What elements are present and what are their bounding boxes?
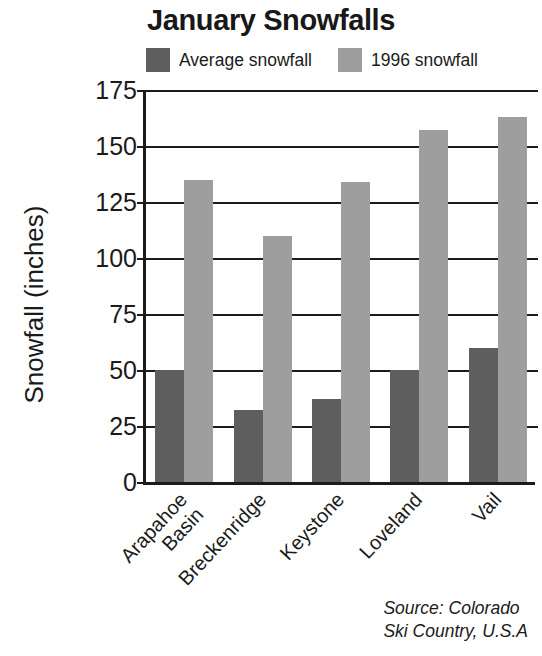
- bar-average-3: [390, 370, 419, 482]
- plot-area: 1751501251007550250: [143, 90, 535, 485]
- snowfall-bar-chart: January Snowfalls Average snowfall 1996 …: [0, 0, 542, 656]
- bar-1996-4: [498, 117, 527, 482]
- legend-label-average: Average snowfall: [179, 50, 312, 71]
- y-tick-label-150: 150: [95, 132, 137, 161]
- y-tick-label-0: 0: [123, 468, 137, 497]
- bar-1996-3: [419, 130, 448, 482]
- x-axis-label-line1: Keystone: [275, 488, 348, 564]
- bar-average-4: [469, 348, 498, 482]
- chart-legend: Average snowfall 1996 snowfall: [146, 48, 478, 72]
- x-axis-label-4: Vail: [468, 489, 506, 527]
- y-tick-label-100: 100: [95, 244, 137, 273]
- x-axis-label-line1: Loveland: [355, 488, 426, 562]
- legend-entry-1996: 1996 snowfall: [338, 48, 478, 72]
- bars-layer: [146, 90, 538, 482]
- x-axis-label-3: Loveland: [356, 489, 427, 563]
- source-note: Source: Colorado Ski Country, U.S.A: [383, 597, 528, 644]
- y-tick-label-75: 75: [109, 300, 137, 329]
- y-tick-label-175: 175: [95, 76, 137, 105]
- y-tick-mark-125: [137, 202, 146, 204]
- x-axis-label-line1: Vail: [467, 488, 505, 526]
- y-tick-mark-0: [137, 482, 146, 484]
- x-axis-label-2: Keystone: [276, 489, 349, 565]
- y-tick-label-25: 25: [109, 412, 137, 441]
- y-tick-mark-75: [137, 314, 146, 316]
- bar-1996-1: [263, 236, 292, 482]
- y-axis-title: Snowfall (inches): [19, 140, 50, 470]
- bar-average-2: [312, 399, 341, 482]
- x-axis-labels: ArapahoeBasinBreckenridgeKeystoneLovelan…: [143, 487, 542, 592]
- y-tick-mark-100: [137, 258, 146, 260]
- bar-average-0: [155, 370, 184, 482]
- y-tick-mark-50: [137, 370, 146, 372]
- source-line-2: Ski Country, U.S.A: [383, 620, 528, 644]
- legend-entry-average: Average snowfall: [146, 48, 312, 72]
- bar-1996-0: [184, 180, 213, 482]
- legend-label-1996: 1996 snowfall: [371, 50, 478, 71]
- y-tick-label-50: 50: [109, 356, 137, 385]
- source-line-1: Source: Colorado: [383, 597, 528, 621]
- chart-title: January Snowfalls: [0, 4, 542, 37]
- bar-average-1: [234, 410, 263, 482]
- y-tick-mark-175: [137, 90, 146, 92]
- y-tick-mark-150: [137, 146, 146, 148]
- y-tick-label-125: 125: [95, 188, 137, 217]
- legend-swatch-1996: [338, 48, 362, 72]
- bar-1996-2: [341, 182, 370, 482]
- y-tick-mark-25: [137, 426, 146, 428]
- legend-swatch-average: [146, 48, 170, 72]
